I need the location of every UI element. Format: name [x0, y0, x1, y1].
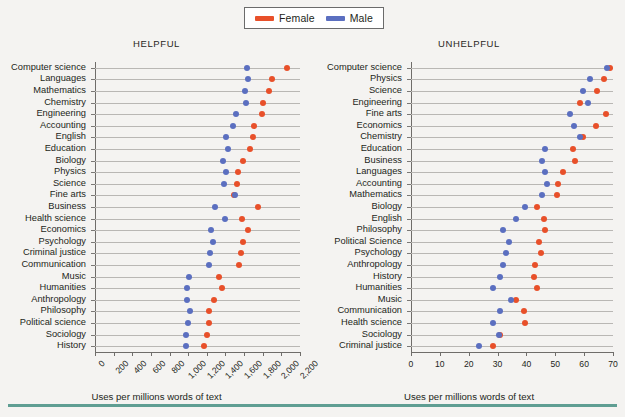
data-point-female	[211, 297, 217, 303]
footer-rule	[8, 404, 617, 407]
y-tick	[407, 242, 411, 243]
plot-area-unhelpful: Computer sciencePhysicsScienceEngineerin…	[411, 62, 613, 352]
data-point-female	[247, 146, 253, 152]
gridline	[95, 265, 300, 266]
plot-area-helpful: Computer scienceLanguagesMathematicsChem…	[95, 62, 300, 352]
y-tick	[407, 335, 411, 336]
category-label: Mathematics	[33, 86, 86, 95]
x-tick	[555, 352, 556, 356]
data-point-female	[239, 216, 245, 222]
category-label: History	[57, 342, 86, 351]
y-tick	[407, 91, 411, 92]
data-point-female	[206, 320, 212, 326]
chart-panel-unhelpful: UNHELPFUL Computer sciencePhysicsScience…	[313, 0, 625, 417]
y-tick	[407, 103, 411, 104]
gridline	[411, 172, 613, 173]
x-tick-label: 600	[151, 359, 167, 375]
data-point-male	[490, 320, 496, 326]
x-axis-title-unhelpful: Uses per millions words of text	[313, 391, 625, 402]
y-tick	[91, 172, 95, 173]
x-tick	[411, 352, 412, 356]
category-label: Music	[378, 295, 402, 304]
data-point-female	[259, 111, 265, 117]
category-label: Economics	[357, 121, 402, 130]
gridline	[411, 68, 613, 69]
x-tick	[281, 352, 282, 356]
gridline	[411, 265, 613, 266]
category-label: Chemistry	[360, 133, 402, 142]
category-label: Computer science	[11, 63, 86, 72]
x-tick-label: 10	[435, 360, 445, 369]
data-point-female	[201, 343, 207, 349]
y-tick	[407, 184, 411, 185]
category-label: Sociology	[362, 330, 402, 339]
data-point-female	[532, 262, 538, 268]
category-label: Business	[364, 156, 402, 165]
data-point-female	[603, 111, 609, 117]
gridline	[411, 288, 613, 289]
gridline	[95, 184, 300, 185]
data-point-female	[235, 169, 241, 175]
y-tick	[407, 219, 411, 220]
data-point-male	[184, 297, 190, 303]
category-label: Psychology	[38, 237, 86, 246]
data-point-female	[255, 204, 261, 210]
data-point-male	[567, 111, 573, 117]
y-tick	[407, 137, 411, 138]
x-tick	[244, 352, 245, 356]
x-tick-label: 0	[409, 360, 414, 369]
y-tick	[407, 172, 411, 173]
x-axis-line	[411, 352, 613, 353]
data-point-female	[490, 343, 496, 349]
gridline	[411, 207, 613, 208]
data-point-female	[513, 297, 519, 303]
y-tick	[407, 253, 411, 254]
data-point-male	[210, 239, 216, 245]
category-label: Science	[369, 86, 402, 95]
data-point-male	[183, 343, 189, 349]
data-point-male	[539, 192, 545, 198]
gridline	[411, 346, 613, 347]
category-label: Engineering	[36, 110, 86, 119]
data-point-female	[531, 274, 537, 280]
y-tick	[407, 161, 411, 162]
x-tick	[469, 352, 470, 356]
data-point-female	[269, 76, 275, 82]
data-point-female	[238, 250, 244, 256]
data-point-male	[232, 192, 238, 198]
gridline	[411, 335, 613, 336]
y-tick	[407, 311, 411, 312]
data-point-male	[223, 169, 229, 175]
y-tick	[91, 68, 95, 69]
y-tick	[91, 288, 95, 289]
data-point-male	[544, 181, 550, 187]
data-point-male	[490, 285, 496, 291]
x-tick	[95, 352, 96, 356]
x-tick	[132, 352, 133, 356]
data-point-male	[508, 297, 514, 303]
data-point-female	[536, 239, 542, 245]
data-point-female	[594, 88, 600, 94]
category-label: Communication	[21, 260, 86, 269]
y-tick	[407, 207, 411, 208]
data-point-male	[577, 134, 583, 140]
category-label: History	[373, 272, 402, 281]
data-point-male	[244, 65, 250, 71]
data-point-male	[497, 308, 503, 314]
gridline	[411, 126, 613, 127]
gridline	[95, 161, 300, 162]
gridline	[95, 103, 300, 104]
category-label: Science	[53, 179, 86, 188]
x-tick-label: 1,800	[261, 359, 282, 380]
x-tick	[188, 352, 189, 356]
x-tick	[225, 352, 226, 356]
data-point-female	[216, 274, 222, 280]
y-tick	[91, 300, 95, 301]
data-point-female	[572, 158, 578, 164]
category-label: Psychology	[354, 249, 402, 258]
y-tick	[91, 335, 95, 336]
gridline	[95, 335, 300, 336]
gridline	[411, 149, 613, 150]
data-point-male	[500, 262, 506, 268]
gridline	[411, 195, 613, 196]
